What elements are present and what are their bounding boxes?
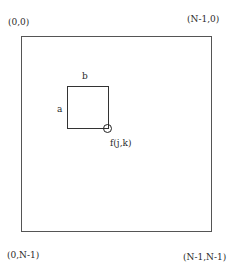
filter-window [67, 86, 109, 129]
pixel-marker-label: f(j,k) [110, 139, 131, 148]
corner-label-bottom-left: (0,N-1) [7, 251, 39, 260]
image-boundary [21, 36, 212, 232]
corner-label-bottom-right: (N-1,N-1) [183, 253, 226, 262]
window-height-label: a [57, 105, 62, 114]
diagram-canvas: (0,0) (N-1,0) b a f(j,k) (0,N-1) (N-1,N-… [0, 0, 232, 269]
corner-label-top-left: (0,0) [8, 18, 29, 27]
pixel-marker-circle [103, 124, 112, 133]
window-width-label: b [82, 72, 88, 81]
corner-label-top-right: (N-1,0) [187, 15, 219, 24]
